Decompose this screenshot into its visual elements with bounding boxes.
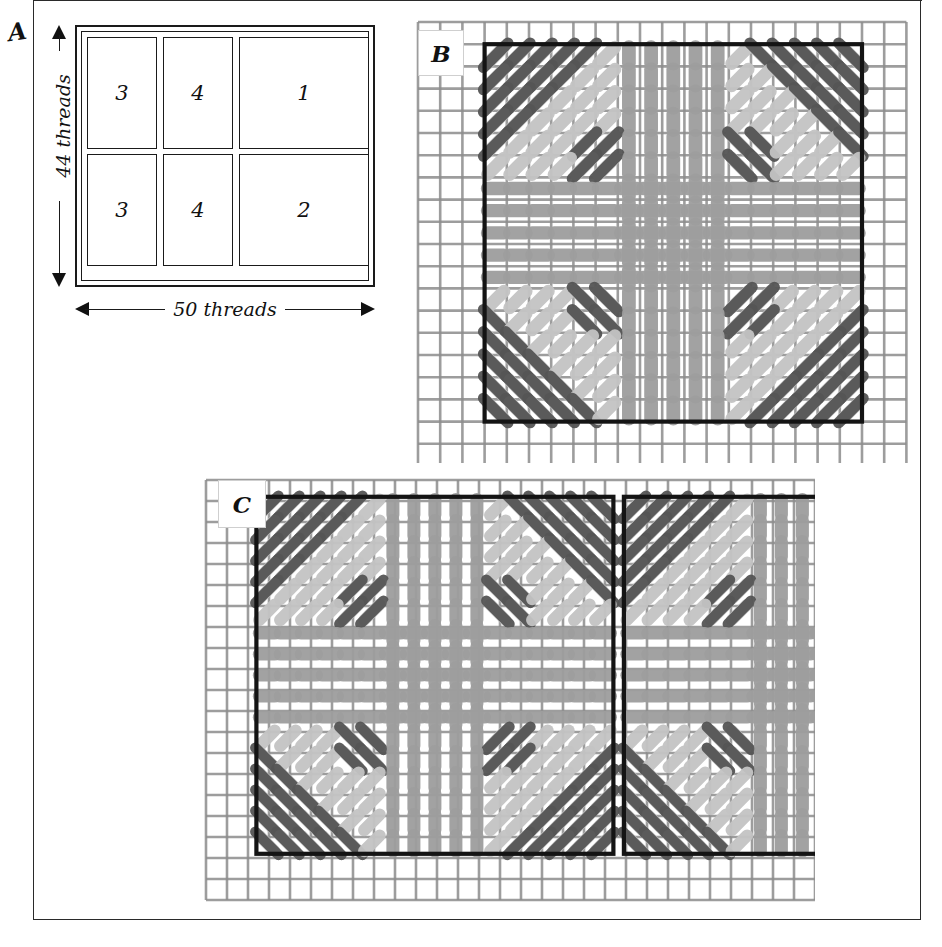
- panel-a-letter: A: [6, 19, 28, 45]
- panel-b: B: [414, 8, 914, 463]
- panel-a-vertical-dimension: 44 threads: [48, 25, 70, 287]
- panel-a-cell-3-r1c0: 3: [87, 154, 157, 266]
- panel-a-cell-3-r0c0: 3: [87, 37, 157, 149]
- panel-a-cell-label: 4: [191, 81, 204, 105]
- panel-c: C: [200, 472, 815, 912]
- panel-c-letter: C: [233, 493, 251, 516]
- panel-a-cell-2-r1c2: 2: [239, 154, 369, 266]
- panel-a-cell-label: 3: [115, 81, 128, 105]
- panel-b-stitch-diagram: [414, 8, 914, 463]
- panel-a-cell-label: 3: [115, 198, 128, 222]
- panel-c-stitch-diagram: [200, 472, 815, 912]
- panel-a-cell-label: 4: [191, 198, 204, 222]
- panel-b-letter-box: B: [418, 30, 464, 76]
- panel-b-letter: B: [431, 42, 450, 65]
- panel-a-cell-label: 1: [297, 81, 310, 105]
- panel-a-cell-4-r0c1: 4: [163, 37, 233, 149]
- panel-a-horizontal-dimension: 50 threads: [75, 298, 375, 320]
- panel-a-horizontal-dimension-text: 50 threads: [165, 298, 285, 320]
- panel-a-horizontal-dimension-label: 50 threads: [75, 298, 375, 320]
- arrow-down-icon: [52, 273, 66, 287]
- panel-a-cell-1-r0c2: 1: [239, 37, 369, 149]
- panel-a-cell-label: 2: [297, 198, 310, 222]
- panel-a: A 44 threads 50 threads 341342: [0, 0, 400, 345]
- panel-a-vertical-dimension-label: 44 threads: [50, 51, 76, 201]
- panel-c-letter-box: C: [218, 480, 266, 528]
- panel-a-cell-4-r1c1: 4: [163, 154, 233, 266]
